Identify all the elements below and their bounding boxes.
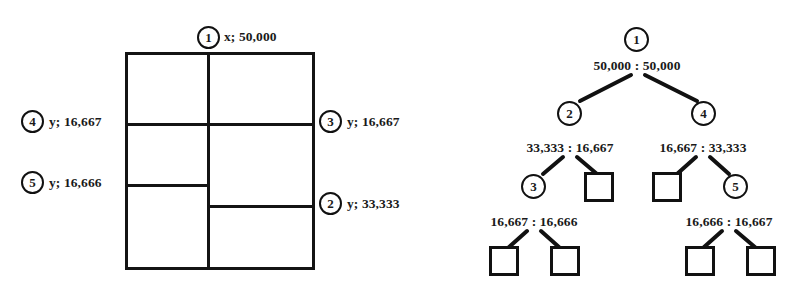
tree-leaf-4-left bbox=[652, 172, 682, 202]
tree-node-4: 4 bbox=[691, 101, 716, 126]
tree-leaf-5-left bbox=[685, 246, 715, 276]
tree-split-label-3: 16,667 : 16,666 bbox=[491, 214, 578, 230]
tree-split-label-2: 33,333 : 16,667 bbox=[527, 140, 614, 156]
tree-leaf-3-right bbox=[550, 246, 580, 276]
tree-split-label-4: 16,667 : 33,333 bbox=[660, 140, 747, 156]
tree-leaf-5-right bbox=[746, 246, 776, 276]
tree-node-1: 1 bbox=[624, 27, 649, 52]
tree-split-label-5: 16,666 : 16,667 bbox=[686, 214, 773, 230]
tree-edge-1-4 bbox=[645, 75, 697, 101]
tree-node-2-number: 2 bbox=[566, 107, 573, 120]
tree-node-3: 3 bbox=[521, 174, 546, 199]
tree-split-label-1: 50,000 : 50,000 bbox=[594, 58, 681, 74]
partition-tree-diagram: 1 50,000 : 50,000 2 4 33,333 : 16,667 16… bbox=[0, 0, 800, 297]
tree-leaf-3-left bbox=[489, 246, 519, 276]
tree-node-2: 2 bbox=[557, 101, 582, 126]
tree-edge-1-2 bbox=[580, 75, 631, 101]
figure-canvas: 1 x; 50,000 4 y; 16,667 5 y; 16,666 3 y;… bbox=[0, 0, 800, 297]
tree-node-1-number: 1 bbox=[633, 33, 640, 46]
tree-edge-4-5 bbox=[710, 157, 729, 174]
tree-leaf-2-right bbox=[584, 172, 614, 202]
tree-edge-2-3 bbox=[543, 157, 563, 174]
tree-node-5-number: 5 bbox=[732, 180, 739, 193]
tree-node-3-number: 3 bbox=[530, 180, 537, 193]
tree-node-5: 5 bbox=[723, 174, 748, 199]
tree-node-4-number: 4 bbox=[700, 107, 707, 120]
